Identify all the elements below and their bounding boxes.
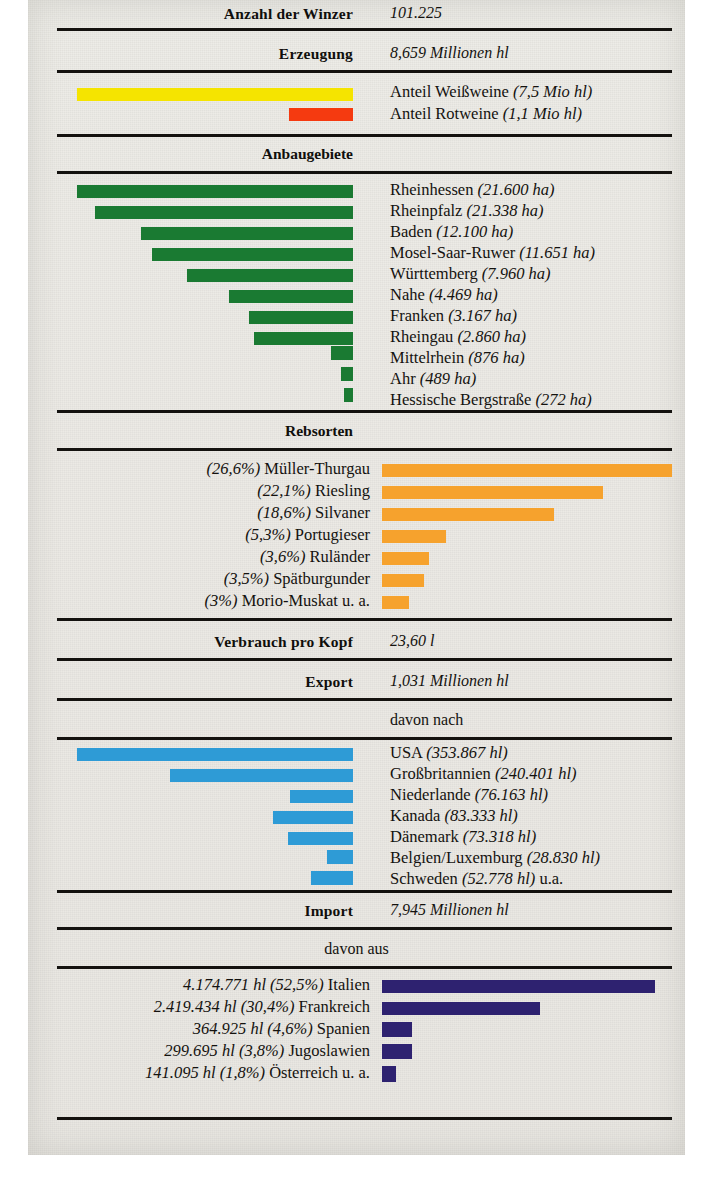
region-value: (489 ha) (420, 369, 476, 388)
bar-import (382, 980, 655, 993)
divider-rule (57, 448, 672, 451)
bar-export (311, 871, 353, 885)
variety-value: (3,6%) (260, 547, 305, 566)
region-label: Rheinpfalz (21.338 ha) (390, 201, 544, 221)
export-country-tail: u.a. (539, 869, 563, 888)
divider-rule (57, 618, 672, 621)
import-country-name: Frankreich (299, 997, 370, 1016)
import-country-label: 141.095 hl (1,8%) Österreich u. a. (145, 1063, 370, 1083)
import-origin-note: davon aus (0, 940, 713, 958)
production-label: Erzeugung (279, 45, 353, 63)
bar-export (170, 769, 353, 782)
import-country-name: Spanien (317, 1019, 370, 1038)
import-country-label: 299.695 hl (3,8%) Jugoslawien (164, 1041, 370, 1061)
bar-region (254, 332, 353, 345)
variety-name: Müller-Thurgau (264, 459, 370, 478)
variety-label: (22,1%) Riesling (257, 481, 370, 501)
bar-region (229, 290, 353, 303)
import-country-label: 4.174.771 hl (52,5%) Italien (183, 975, 370, 995)
bar-region (95, 206, 353, 219)
region-label: Württemberg (7.960 ha) (390, 264, 551, 284)
bar-region (341, 367, 353, 381)
divider-rule (57, 966, 672, 969)
import-country-name: Österreich u. a. (269, 1063, 370, 1082)
bar-import (382, 1066, 396, 1082)
divider-rule-bottom (57, 1117, 672, 1120)
export-country-value: (76.163 hl) (475, 785, 548, 804)
import-value: 7,945 Millionen hl (390, 901, 509, 919)
variety-name: Morio-Muskat u. a. (242, 591, 370, 610)
bar-variety (382, 596, 409, 609)
region-value: (21.600 ha) (478, 180, 555, 199)
bar-variety (382, 464, 672, 477)
region-value: (3.167 ha) (448, 306, 517, 325)
red-wine-label: Anteil Rotweine (1,1 Mio hl) (390, 104, 582, 124)
variety-value: (3%) (205, 591, 238, 610)
consumption-value: 23,60 l (390, 632, 434, 650)
export-country-name: Schweden (390, 869, 458, 888)
variety-label: (5,3%) Portugieser (245, 525, 370, 545)
red-wine-name: Anteil Rotweine (390, 104, 499, 123)
bar-export (288, 832, 353, 845)
bar-export (327, 850, 353, 864)
export-country-label: Schweden (52.778 hl) u.a. (390, 869, 563, 889)
bar-region (152, 248, 353, 261)
bar-region (249, 311, 353, 324)
region-name: Franken (390, 306, 444, 325)
export-value: 1,031 Millionen hl (390, 672, 509, 690)
bar-variety (382, 574, 424, 587)
production-value: 8,659 Millionen hl (390, 44, 509, 62)
import-label: Import (304, 902, 353, 920)
region-name: Rheinhessen (390, 180, 473, 199)
bar-red-wine (289, 108, 353, 121)
export-country-value: (73.318 hl) (463, 827, 536, 846)
region-value: (7.960 ha) (482, 264, 551, 283)
region-name: Nahe (390, 285, 425, 304)
divider-rule (57, 698, 672, 701)
export-country-value: (353.867 hl) (426, 743, 508, 762)
divider-rule (57, 927, 672, 930)
divider-rule (57, 171, 672, 174)
region-label: Hessische Bergstraße (272 ha) (390, 390, 592, 410)
divider-rule (57, 658, 672, 661)
import-country-name: Italien (328, 975, 370, 994)
bar-export (77, 748, 353, 761)
regions-section-title: Anbaugebiete (262, 145, 353, 163)
variety-value: (5,3%) (245, 525, 290, 544)
export-country-name: USA (390, 743, 422, 762)
divider-rule (57, 70, 672, 73)
growers-label: Anzahl der Winzer (224, 5, 353, 23)
region-value: (4.469 ha) (429, 285, 498, 304)
region-label: Franken (3.167 ha) (390, 306, 517, 326)
import-country-value: 4.174.771 hl (52,5%) (183, 975, 324, 994)
import-country-value: 299.695 hl (3,8%) (164, 1041, 284, 1060)
variety-value: (3,5%) (224, 569, 269, 588)
consumption-label: Verbrauch pro Kopf (214, 633, 353, 651)
export-country-label: Niederlande (76.163 hl) (390, 785, 548, 805)
export-destination-note: davon nach (390, 711, 463, 729)
region-label: Nahe (4.469 ha) (390, 285, 498, 305)
region-name: Mittelrhein (390, 348, 464, 367)
import-country-label: 364.925 hl (4,6%) Spanien (193, 1019, 370, 1039)
import-country-label: 2.419.434 hl (30,4%) Frankreich (154, 997, 370, 1017)
region-name: Baden (390, 222, 432, 241)
region-label: Baden (12.100 ha) (390, 222, 513, 242)
white-wine-value: (7,5 Mio hl) (513, 82, 592, 101)
variety-value: (18,6%) (257, 503, 311, 522)
import-country-value: 141.095 hl (1,8%) (145, 1063, 265, 1082)
region-name: Ahr (390, 369, 416, 388)
variety-label: (3,5%) Spätburgunder (224, 569, 370, 589)
region-name: Rheinpfalz (390, 201, 462, 220)
variety-label: (3%) Morio-Muskat u. a. (205, 591, 370, 611)
variety-value: (26,6%) (207, 459, 261, 478)
export-label: Export (305, 673, 353, 691)
white-wine-label: Anteil Weißweine (7,5 Mio hl) (390, 82, 592, 102)
import-country-name: Jugoslawien (288, 1041, 370, 1060)
bar-export (290, 790, 353, 803)
export-country-label: Kanada (83.333 hl) (390, 806, 518, 826)
region-value: (876 ha) (468, 348, 524, 367)
export-country-label: USA (353.867 hl) (390, 743, 508, 763)
export-country-label: Belgien/Luxemburg (28.830 hl) (390, 848, 600, 868)
variety-label: (18,6%) Silvaner (257, 503, 370, 523)
region-label: Rheingau (2.860 ha) (390, 327, 526, 347)
